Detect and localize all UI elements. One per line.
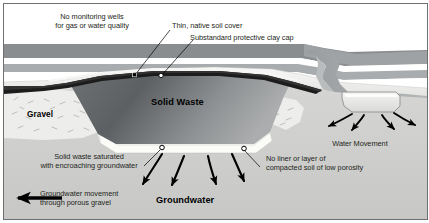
solid-waste-mass xyxy=(70,74,290,144)
figure-canvas: No monitoring wells for gas or water qua… xyxy=(0,0,429,223)
label-no-liner: No liner or layer of compacted soil of l… xyxy=(266,155,363,172)
label-no-monitoring-wells-line2: for gas or water quality xyxy=(32,22,152,31)
label-water-movement: Water Movement xyxy=(317,140,403,149)
label-solid-waste-saturated-line2: with encroaching groundwater xyxy=(34,162,144,171)
stratum-label-solid-waste: Solid Waste xyxy=(151,97,204,107)
label-thin-native-soil-cover: Thin, native soil cover xyxy=(172,22,242,31)
marker-saturated-waste xyxy=(160,145,165,150)
pond-surface-highlight xyxy=(344,94,398,97)
label-groundwater-movement-line2: through porous gravel xyxy=(40,199,118,208)
marker-native-soil-cover xyxy=(133,73,137,77)
stratum-label-groundwater: Groundwater xyxy=(156,195,214,205)
label-no-liner-line2: compacted soil of low porosity xyxy=(266,164,363,173)
marker-clay-cap xyxy=(159,73,163,77)
label-solid-waste-saturated: Solid waste saturated with encroaching g… xyxy=(34,153,144,170)
marker-no-liner xyxy=(242,146,247,151)
label-substandard-clay-cap: Substandard protective clay cap xyxy=(190,34,294,43)
label-groundwater-movement: Groundwater movement through porous grav… xyxy=(40,190,118,207)
diagram-frame: No monitoring wells for gas or water qua… xyxy=(3,3,428,220)
stratum-label-gravel: Gravel xyxy=(27,110,53,119)
label-no-monitoring-wells: No monitoring wells for gas or water qua… xyxy=(32,13,152,30)
